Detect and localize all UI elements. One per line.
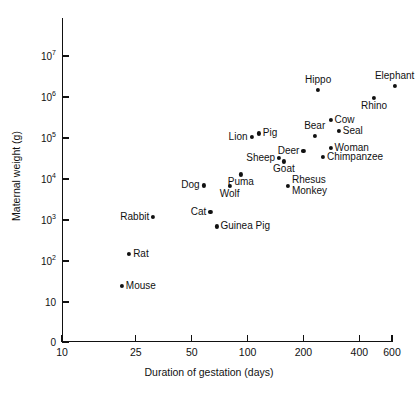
y-tick-mark [62,341,69,342]
y-tick-mark [62,219,69,220]
y-tick-label: 102 [41,256,56,267]
y-tick-label: 106 [41,92,56,103]
data-point [328,146,332,150]
y-tick-label: 103 [41,215,56,226]
point-label: Hippo [305,75,331,86]
y-axis-title: Maternal weight (g) [10,116,22,236]
point-label: RhesusMonkey [292,175,327,197]
x-tick-mark [191,335,192,342]
scatter-plot: 107106105104103102100 102550100200400600… [0,0,418,393]
point-label: Cat [191,206,207,217]
point-label: Puma [228,177,254,188]
point-label: Sheep [246,152,275,163]
data-point [127,252,131,256]
point-label: Seal [343,125,363,136]
point-label: Wolf [220,189,240,200]
y-tick-label: 107 [41,51,56,62]
x-tick-label: 10 [56,346,68,358]
y-tick-mark [62,178,69,179]
point-label: Chimpanzee [327,152,383,163]
data-point [328,118,332,122]
y-tick-label: 104 [41,174,56,185]
data-point [321,155,325,159]
data-point [393,83,397,87]
x-tick-mark [391,335,392,342]
data-point [208,210,212,214]
point-label: Rat [133,248,149,259]
y-tick-mark [62,55,69,56]
point-label: Dog [181,180,199,191]
y-axis-line [62,18,63,342]
data-point [301,149,305,153]
point-label: Lion [229,132,248,143]
y-tick-mark [62,137,69,138]
x-axis-line [62,341,392,342]
point-label: Elephant [375,71,414,82]
y-tick-mark [62,301,69,302]
data-point [286,184,290,188]
data-point [316,88,320,92]
x-tick-mark [61,335,62,342]
data-point [249,135,253,139]
y-tick-label: 0 [50,337,56,348]
point-label: Rhino [361,101,387,112]
data-point [202,183,206,187]
x-tick-mark [135,335,136,342]
x-tick-label: 400 [351,346,369,358]
data-point [313,134,317,138]
point-label: Rabbit [120,211,149,222]
y-tick-mark [62,260,69,261]
x-tick-mark [247,335,248,342]
point-label: Bear [304,122,325,133]
data-point [257,131,261,135]
y-tick-label: 105 [41,133,56,144]
data-point [151,215,155,219]
x-tick-mark [359,335,360,342]
point-label: Mouse [126,280,156,291]
y-tick-mark [62,96,69,97]
point-label: Guinea Pig [221,221,270,232]
x-tick-label: 50 [186,346,198,358]
data-point [337,129,341,133]
y-tick-label: 10 [45,297,56,308]
x-tick-label: 100 [239,346,257,358]
x-tick-mark [303,335,304,342]
data-point [214,224,218,228]
x-tick-label: 600 [383,346,401,358]
x-tick-label: 200 [295,346,313,358]
point-label: Deer [278,146,300,157]
data-point [120,284,124,288]
x-axis-title: Duration of gestation (days) [0,366,418,378]
x-tick-label: 25 [130,346,142,358]
point-label: Goat [273,164,295,175]
point-label: Pig [263,128,277,139]
